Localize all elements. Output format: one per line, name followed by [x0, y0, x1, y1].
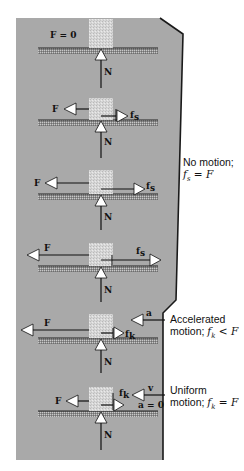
applied-force-label: F [44, 318, 51, 328]
normal-label: N [104, 357, 112, 367]
applied-force-label: F [52, 104, 59, 114]
math-rest: < F [216, 325, 239, 337]
friction-diagram: N F = 0 F fs N [0, 0, 244, 471]
normal-label: N [104, 212, 112, 222]
applied-force-label: F = 0 [50, 30, 76, 40]
math-rest: = F [190, 168, 213, 180]
velocity-label: v [147, 383, 154, 393]
applied-force-label: F [55, 396, 62, 406]
ground-surface [38, 266, 158, 272]
applied-force-label: F [34, 178, 41, 188]
annotation-line-1: Uniform [170, 384, 238, 396]
block [89, 19, 113, 48]
annotation-uniform: Uniform motion; fk = F [170, 384, 238, 413]
annotation-line-1: Accelerated [170, 313, 238, 325]
ground-surface [38, 48, 158, 54]
annotation-no-motion: No motion; fs = F [183, 156, 234, 185]
ground-surface [38, 120, 158, 126]
math-rest: = F [216, 396, 239, 408]
annotation-line-1: No motion; [183, 156, 234, 168]
applied-force-label: F [44, 243, 51, 253]
block [89, 314, 113, 338]
ground-surface [38, 194, 158, 200]
ground-surface [38, 411, 158, 417]
ground-surface [38, 338, 158, 344]
annotation-text: motion; [170, 396, 207, 408]
annotation-text: motion; [170, 325, 207, 337]
annotation-accelerated: Accelerated motion; fk < F [170, 313, 238, 342]
block [89, 98, 113, 120]
normal-label: N [104, 285, 112, 295]
normal-label: N [104, 430, 112, 440]
acceleration-label: a [146, 308, 152, 318]
annotation-line-2: motion; fk < F [170, 325, 238, 342]
block [89, 170, 113, 194]
normal-label: N [104, 137, 112, 147]
block [89, 387, 113, 411]
zero-acceleration-label: a = 0 [138, 400, 164, 410]
normal-label: N [104, 67, 112, 77]
annotation-line-2: motion; fk = F [170, 396, 238, 413]
annotation-line-2: fs = F [183, 168, 234, 185]
block [89, 243, 113, 266]
